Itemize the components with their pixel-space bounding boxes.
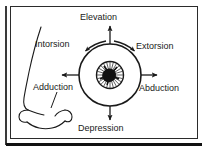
label-adduction: Adduction bbox=[33, 82, 73, 92]
figure-root: Elevation Intorsion Extorsion Adduction … bbox=[0, 0, 207, 159]
label-elevation: Elevation bbox=[80, 12, 117, 22]
label-intorsion: Intorsion bbox=[35, 39, 70, 49]
label-depression: Depression bbox=[78, 123, 124, 133]
adduction-leader-line bbox=[51, 92, 57, 108]
label-extorsion: Extorsion bbox=[136, 41, 174, 51]
label-abduction: Abduction bbox=[139, 83, 179, 93]
diagram-canvas bbox=[0, 0, 207, 159]
